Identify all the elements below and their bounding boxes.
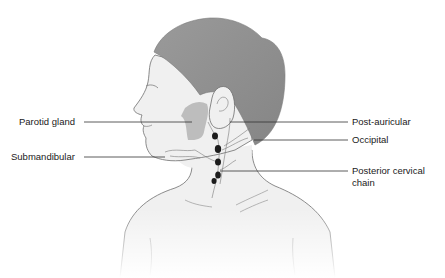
label-post-auricular: Post-auricular bbox=[352, 116, 411, 127]
label-chain: chain bbox=[352, 177, 375, 188]
label-occipital: Occipital bbox=[352, 134, 388, 145]
lymph-node-diagram: Parotid gland Submandibular Post-auricul… bbox=[0, 0, 445, 278]
label-submandibular: Submandibular bbox=[11, 151, 75, 162]
label-parotid-gland: Parotid gland bbox=[19, 116, 75, 127]
label-posterior-cervical: Posterior cervical bbox=[352, 165, 425, 176]
